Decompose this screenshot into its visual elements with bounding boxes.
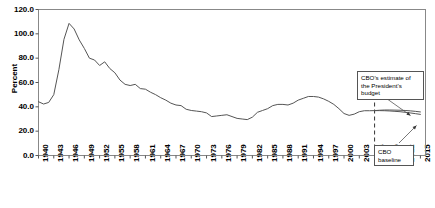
- annotation-line-2: baseline: [378, 156, 410, 164]
- annotation-leader-lines: [383, 96, 417, 143]
- annotation-cbo-president-budget: CBO's estimate of the President's budget: [357, 71, 424, 100]
- annotation-cbo-baseline: CBO baseline: [374, 145, 414, 166]
- plot-area: [0, 0, 435, 208]
- annotation-line-2: the President's: [361, 82, 420, 90]
- series-line: [39, 23, 375, 119]
- annotation-line-3: budget: [361, 89, 420, 97]
- annotation-line-1: CBO: [378, 148, 410, 156]
- debt-percent-gdp-chart: Percent 0.020.040.060.080.0100.0120.0 19…: [0, 0, 435, 208]
- annotation-line-1: CBO's estimate of: [361, 74, 420, 82]
